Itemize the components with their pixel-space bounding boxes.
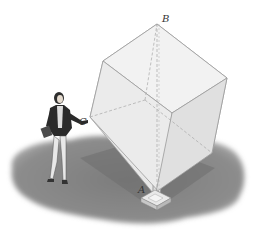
cube-on-vertex-illustration: B C A xyxy=(0,0,258,236)
vertex-label-a: A xyxy=(137,184,145,195)
vertex-label-c: C xyxy=(79,116,87,127)
vertex-label-b: B xyxy=(161,13,169,24)
